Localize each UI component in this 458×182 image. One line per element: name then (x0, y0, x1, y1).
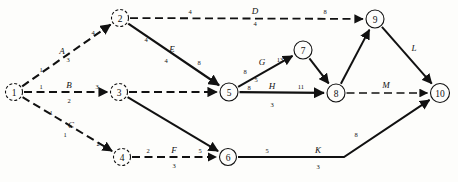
edge-h-name: H (268, 81, 276, 91)
node-3[interactable]: 3 (111, 84, 128, 101)
edge-h (240, 92, 325, 93)
node-10[interactable]: 10 (431, 84, 450, 103)
node-1-label: 1 (12, 88, 17, 98)
edge-g-tail-number: 13 (277, 56, 284, 63)
node-6-label: 6 (226, 153, 231, 163)
edge-d-tail-number: 8 (323, 8, 326, 15)
edge-j (128, 97, 219, 151)
edge-c-below-number: 1 (63, 131, 66, 138)
edge-b-tail-number: 3 (95, 83, 98, 90)
edge-a-head-number: 1 (39, 66, 42, 73)
edge-k-below-number: 3 (316, 163, 319, 170)
node-9-label: 9 (373, 15, 378, 25)
node-2-label: 2 (118, 14, 123, 24)
node-8[interactable]: 8 (327, 84, 345, 102)
edge-c-tail-number: 2 (96, 140, 99, 147)
node-9[interactable]: 9 (366, 10, 384, 28)
edge-k-head-number: 5 (265, 147, 268, 154)
edge-a-name: A (58, 46, 65, 56)
edge-d-head-number: 4 (188, 8, 192, 15)
edge-f-below-number: 3 (172, 162, 175, 169)
edge-c-name: C (68, 120, 75, 130)
node-5-label: 5 (227, 88, 232, 98)
edge-e-tail-number: 8 (197, 59, 200, 66)
edge-m-name: M (381, 80, 390, 90)
edge-g-below-number: 5 (254, 76, 257, 83)
edge-e (128, 24, 219, 86)
node-2[interactable]: 2 (112, 10, 129, 27)
edge-l-name: L (410, 43, 416, 53)
edge-h-below-number: 3 (270, 101, 273, 108)
edge-o (341, 30, 370, 84)
edge-e-name: E (168, 44, 175, 54)
edge-k-name: K (314, 145, 322, 155)
network-diagram: A143B132C121D484E484F253G8135H8113K583LM… (0, 0, 458, 182)
node-7-label: 7 (301, 46, 306, 56)
node-8-label: 8 (334, 89, 339, 99)
edge-i (309, 58, 328, 83)
edge-c-head-number: 1 (49, 109, 52, 116)
node-10-label: 10 (435, 89, 445, 99)
node-1[interactable]: 1 (6, 84, 23, 101)
edge-b-name: B (66, 80, 72, 90)
edge-h-tail-number: 11 (298, 83, 304, 90)
network-graph-canvas: A143B132C121D484E484F253G8135H8113K583LM… (0, 0, 458, 182)
edge-l (382, 27, 432, 84)
edge-g-head-number: 8 (243, 68, 246, 75)
node-5[interactable]: 5 (220, 83, 238, 101)
edge-b-below-number: 2 (67, 97, 70, 104)
node-4-label: 4 (120, 153, 125, 163)
edge-f-head-number: 2 (146, 147, 149, 154)
edge-b-head-number: 1 (39, 83, 42, 90)
edge-h-head-number: 8 (247, 84, 250, 91)
node-7[interactable]: 7 (294, 41, 312, 59)
node-6[interactable]: 6 (220, 149, 237, 166)
edge-a-below-number: 3 (66, 56, 69, 63)
edge-d-below-number: 4 (253, 20, 257, 27)
edge-f-tail-number: 5 (198, 147, 201, 154)
edge-d (130, 18, 363, 19)
node-3-label: 3 (117, 88, 122, 98)
edge-e-below-number: 4 (164, 57, 168, 64)
edge-k-tail-number: 8 (354, 131, 357, 138)
edge-g-name: G (259, 57, 266, 67)
edge-d-name: D (251, 6, 259, 16)
node-4[interactable]: 4 (114, 149, 131, 166)
edge-f-name: F (170, 145, 177, 155)
